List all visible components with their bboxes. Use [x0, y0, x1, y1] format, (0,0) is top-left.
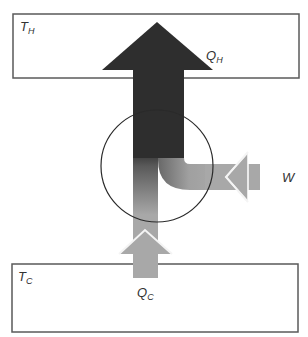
heat-engine-diagram: TH QH W TC QC [0, 0, 308, 337]
work-arrow-head [226, 152, 248, 202]
work-label: W [282, 170, 296, 185]
